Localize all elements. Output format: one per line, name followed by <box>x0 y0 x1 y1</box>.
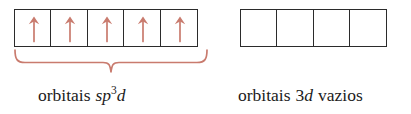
orbital-box[interactable] <box>240 9 278 47</box>
up-arrow-icon <box>124 10 162 48</box>
orbital-box[interactable] <box>87 9 125 47</box>
up-arrow-icon <box>15 10 53 48</box>
caption-sp3d: orbitaissp3d <box>38 87 126 105</box>
orbital-box[interactable] <box>123 9 161 47</box>
orbital-box[interactable] <box>50 9 88 47</box>
caption-3d-orbital-d: d <box>304 85 313 105</box>
caption-3d-level: 3 <box>296 85 305 105</box>
orbital-box-diagram: orbitaissp3d orbitais3dvazios <box>0 0 411 114</box>
caption-3d-prefix: orbitais <box>238 85 291 105</box>
up-arrow-icon <box>51 10 89 48</box>
up-arrow-icon <box>88 10 126 48</box>
orbital-row-sp3d <box>14 9 198 47</box>
up-arrow-icon <box>161 10 199 48</box>
orbital-box[interactable] <box>160 9 198 47</box>
caption-sp3d-prefix: orbitais <box>38 85 91 105</box>
orbital-row-3d-empty <box>240 9 387 47</box>
caption-3d-vazios: orbitais3dvazios <box>238 87 363 105</box>
orbital-box[interactable] <box>276 9 314 47</box>
caption-sp3d-orbital-p: p <box>102 85 111 105</box>
caption-3d-suffix: vazios <box>318 85 363 105</box>
orbital-box[interactable] <box>14 9 52 47</box>
brace <box>12 49 210 75</box>
orbital-box[interactable] <box>349 9 387 47</box>
curly-brace-icon <box>12 49 210 75</box>
orbital-box[interactable] <box>313 9 351 47</box>
caption-sp3d-orbital-d: d <box>117 85 126 105</box>
